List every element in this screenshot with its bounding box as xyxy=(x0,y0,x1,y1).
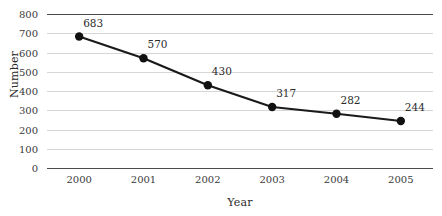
data-point-marker xyxy=(332,110,340,118)
y-tick-label: 600 xyxy=(0,47,38,58)
y-tick-label: 700 xyxy=(0,28,38,39)
x-tick-label: 2003 xyxy=(242,174,302,185)
line-chart: Number 0100200300400500600700800 2000200… xyxy=(0,0,442,216)
y-tick-label: 500 xyxy=(0,66,38,77)
series-line xyxy=(47,14,433,168)
series-polyline xyxy=(79,37,401,122)
x-tick-label: 2005 xyxy=(371,174,431,185)
data-point-label: 683 xyxy=(83,17,103,29)
y-tick-label: 100 xyxy=(0,143,38,154)
data-point-label: 430 xyxy=(212,65,232,77)
data-point-label: 244 xyxy=(405,101,425,113)
y-tick-label: 400 xyxy=(0,86,38,97)
data-point-label: 317 xyxy=(276,87,296,99)
x-tick-label: 2002 xyxy=(178,174,238,185)
x-tick-label: 2000 xyxy=(49,174,109,185)
data-point-label: 282 xyxy=(340,94,360,106)
data-point-label: 570 xyxy=(147,38,167,50)
series-markers xyxy=(75,32,405,125)
y-tick-label: 0 xyxy=(0,163,38,174)
y-tick-label: 800 xyxy=(0,9,38,20)
data-point-marker xyxy=(204,81,212,89)
plot-area xyxy=(47,14,433,168)
x-tick-label: 2004 xyxy=(307,174,367,185)
x-axis-title: Year xyxy=(47,196,433,209)
y-tick-label: 300 xyxy=(0,105,38,116)
data-point-marker xyxy=(75,32,83,40)
data-point-marker xyxy=(397,117,405,125)
y-tick-label: 200 xyxy=(0,124,38,135)
x-tick-label: 2001 xyxy=(114,174,174,185)
data-point-marker xyxy=(139,54,147,62)
gridline-0 xyxy=(47,168,433,169)
data-point-marker xyxy=(268,103,276,111)
